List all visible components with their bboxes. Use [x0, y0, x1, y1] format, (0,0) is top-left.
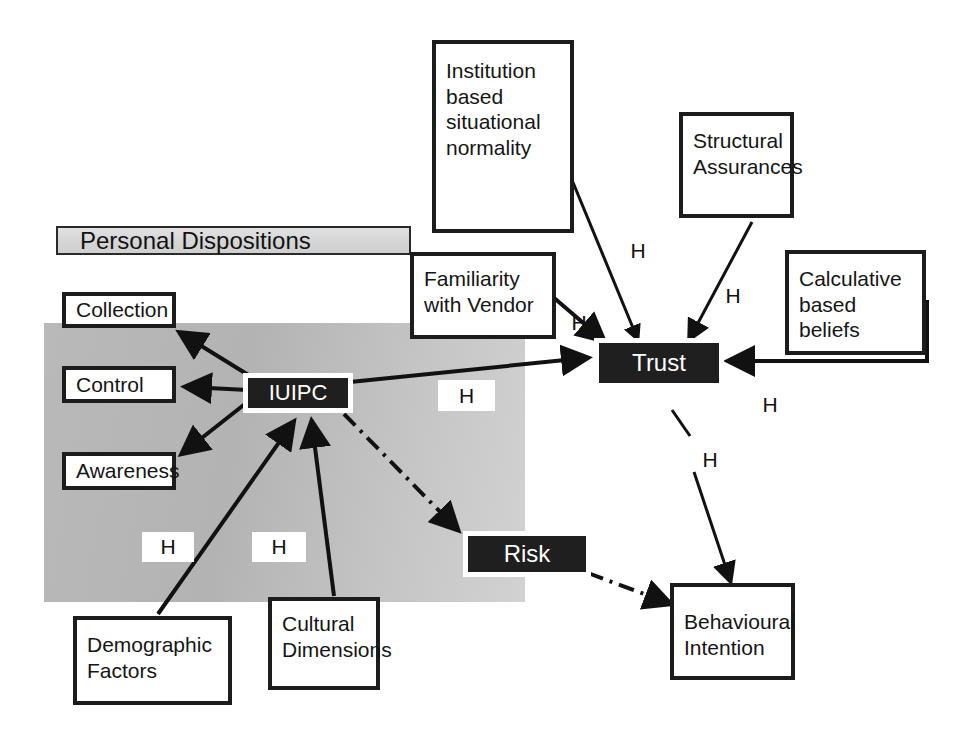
node-label: Trust — [632, 348, 686, 377]
node-calculative-based-beliefs[interactable]: Calculative based beliefs — [785, 250, 926, 355]
node-cultural-dimensions[interactable]: Cultural Dimensions — [268, 597, 380, 690]
diagram-canvas: Personal Dispositions Institution based … — [0, 0, 958, 737]
node-label: Collection — [66, 297, 168, 323]
hypothesis-label-familiarity-trust: H — [566, 310, 592, 336]
node-structural-assurances[interactable]: Structural Assurances — [679, 112, 794, 218]
node-behavioural-intention[interactable]: Behavioural Intention — [670, 583, 795, 680]
node-familiarity-with-vendor[interactable]: Familiarity with Vendor — [410, 252, 556, 339]
hypothesis-label-cultural-iuipc: H — [252, 532, 306, 562]
hypothesis-label-demographic-iuipc: H — [142, 532, 194, 562]
hypothesis-label-trust-behavioural: H — [697, 447, 723, 473]
personal-dispositions-label: Personal Dispositions — [58, 227, 311, 255]
hypothesis-label-structural-trust: H — [720, 283, 746, 309]
edge-trust-to-behavioural-2 — [694, 472, 730, 580]
node-label: Demographic Factors — [77, 620, 212, 683]
h-text: H — [459, 384, 474, 408]
node-label: Control — [66, 372, 144, 398]
edge-risk-to-behavioural — [588, 573, 668, 603]
node-label: Cultural Dimensions — [272, 601, 392, 662]
node-label: Behavioural Intention — [674, 587, 795, 660]
h-text: H — [160, 535, 175, 559]
node-iuipc[interactable]: IUIPC — [243, 373, 353, 413]
h-text: H — [725, 284, 740, 308]
node-collection[interactable]: Collection — [62, 292, 176, 328]
node-label: Risk — [504, 539, 551, 568]
hypothesis-label-institution-trust: H — [625, 238, 651, 264]
node-label: IUIPC — [269, 380, 328, 407]
h-text: H — [571, 311, 586, 335]
h-text: H — [762, 393, 777, 417]
node-demographic-factors[interactable]: Demographic Factors — [73, 616, 232, 705]
node-label: Calculative based beliefs — [789, 254, 922, 343]
personal-dispositions-banner: Personal Dispositions — [56, 226, 411, 255]
edge-structural-to-trust — [690, 222, 752, 338]
node-label: Awareness — [66, 458, 180, 484]
h-text: H — [630, 239, 645, 263]
node-label: Structural Assurances — [683, 116, 803, 179]
h-text: H — [271, 535, 286, 559]
hypothesis-label-calculative-trust: H — [757, 392, 783, 418]
node-awareness[interactable]: Awareness — [62, 452, 176, 490]
node-label: Institution based situational normality — [436, 44, 541, 160]
node-trust[interactable]: Trust — [594, 338, 724, 388]
edge-trust-to-behavioural — [672, 410, 690, 436]
node-institution-based-situational-normality[interactable]: Institution based situational normality — [432, 40, 574, 233]
node-label: Familiarity with Vendor — [414, 256, 534, 317]
h-text: H — [702, 448, 717, 472]
node-risk[interactable]: Risk — [463, 531, 591, 577]
node-control[interactable]: Control — [62, 366, 176, 403]
hypothesis-label-iuipc-trust: H — [438, 380, 495, 411]
